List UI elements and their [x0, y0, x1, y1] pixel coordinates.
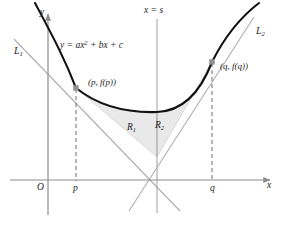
x-tick-label-p: p: [73, 184, 78, 194]
y-axis-label: y: [40, 8, 44, 18]
point-q-label: (q, f(q)): [220, 62, 248, 71]
region-2-label: R2: [155, 121, 164, 131]
shaded-region-2: [157, 62, 212, 157]
tangent-line-2-label: L2: [256, 26, 265, 37]
curve-equation-label: y = ax2 + bx + c: [60, 40, 123, 50]
x-tick-label-q: q: [210, 184, 215, 194]
point-marker-p: [73, 85, 78, 90]
region-1-label: R1: [127, 123, 136, 133]
point-marker-q: [209, 59, 214, 64]
parabola-figure: y = ax2 + bx + c L1 L2 x = s (p, f(p)) (…: [0, 0, 282, 226]
shaded-region-1: [76, 88, 157, 157]
origin-label: O: [37, 183, 44, 193]
tangent-line-1-label: L1: [14, 46, 23, 57]
x-axis-label: x: [267, 181, 271, 191]
point-p-label: (p, f(p)): [88, 78, 116, 87]
vertical-line-label: x = s: [144, 6, 163, 16]
